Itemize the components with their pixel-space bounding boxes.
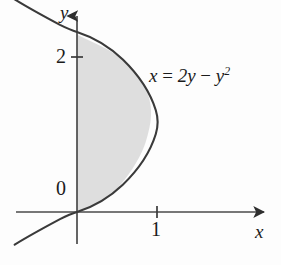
equation-term-2: y <box>216 65 224 86</box>
x-axis-label: x <box>255 222 263 241</box>
origin-label: 0 <box>56 178 66 198</box>
y-tick-label-2: 2 <box>56 46 66 66</box>
plot-canvas <box>0 0 281 265</box>
equation-term-1: 2y <box>178 65 196 86</box>
x-tick-label-1: 1 <box>151 219 161 239</box>
equation-equals: = <box>157 65 177 86</box>
equation-minus-sign: − <box>196 65 216 86</box>
y-axis-label: y <box>60 3 68 22</box>
equation-annotation: x = 2y − y2 <box>149 66 230 85</box>
figure-container: x = 2y − y2 y x 2 0 1 <box>0 0 281 265</box>
shaded-region <box>77 35 151 213</box>
equation-exponent: 2 <box>224 65 230 78</box>
